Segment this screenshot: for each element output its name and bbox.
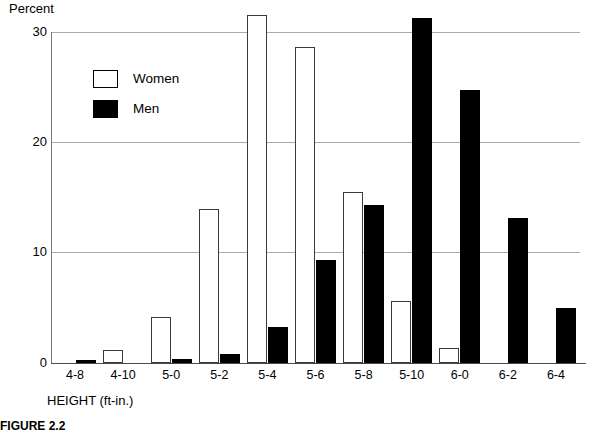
x-tick-label-5-0: 5-0	[147, 368, 195, 383]
x-tick-label-5-6: 5-6	[291, 368, 339, 383]
y-tick-20: 20	[3, 135, 47, 148]
bar-women-6-0	[439, 348, 459, 363]
x-tick-label-5-10: 5-10	[388, 368, 436, 383]
x-tick-label-4-10: 4-10	[99, 368, 147, 383]
bar-women-5-2	[199, 209, 219, 363]
bar-women-5-8	[343, 192, 363, 363]
y-tick-30: 30	[3, 25, 47, 38]
y-tick-labels: 30 20 10 0	[0, 0, 47, 430]
x-tick-label-6-4: 6-4	[532, 368, 580, 383]
x-axis-title: HEIGHT (ft-in.)	[47, 394, 133, 408]
bar-men-6-4	[556, 308, 576, 363]
open-square-swatch-icon	[93, 70, 118, 88]
x-axis-line	[51, 363, 586, 364]
bar-men-5-6	[316, 260, 336, 363]
bar-men-5-2	[220, 354, 240, 363]
filled-square-swatch-icon	[93, 100, 118, 118]
bar-men-6-0	[460, 90, 480, 363]
bar-men-4-8	[76, 360, 96, 363]
bar-women-5-4	[247, 15, 267, 363]
legend-label-men: Men	[133, 99, 159, 119]
figure-caption: FIGURE 2.2	[0, 420, 65, 430]
y-tick-0: 0	[3, 356, 47, 369]
legend-label-women: Women	[133, 69, 179, 89]
x-tick-label-5-4: 5-4	[243, 368, 291, 383]
figure-chart: Percent 30 20 10 0 4-84-105-05-25-45-65-…	[0, 0, 603, 430]
bar-men-5-0	[172, 359, 192, 363]
bar-men-5-10	[412, 18, 432, 363]
bars-layer	[51, 32, 580, 363]
y-tick-10: 10	[3, 245, 47, 258]
x-tick-label-6-2: 6-2	[484, 368, 532, 383]
x-tick-label-6-0: 6-0	[436, 368, 484, 383]
x-tick-labels: 4-84-105-05-25-45-65-85-106-06-26-4	[51, 368, 580, 388]
bar-women-5-6	[295, 47, 315, 363]
bar-men-5-8	[364, 205, 384, 363]
bar-women-5-10	[391, 301, 411, 363]
x-tick-label-5-2: 5-2	[195, 368, 243, 383]
bar-men-6-2	[508, 218, 528, 363]
bar-women-5-0	[151, 317, 171, 363]
x-tick-label-4-8: 4-8	[51, 368, 99, 383]
bar-women-4-10	[103, 350, 123, 363]
bar-men-5-4	[268, 327, 288, 363]
x-tick-label-5-8: 5-8	[340, 368, 388, 383]
